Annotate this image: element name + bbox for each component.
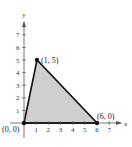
x-axis-arrow-icon — [116, 121, 122, 125]
svg-text:2: 2 — [16, 94, 20, 102]
svg-text:6: 6 — [16, 44, 20, 52]
svg-text:7: 7 — [108, 126, 112, 134]
vertex-1-5 — [35, 58, 39, 62]
svg-text:2: 2 — [47, 126, 51, 134]
svg-text:5: 5 — [83, 126, 87, 134]
chart: 1 2 3 4 5 6 7 1 2 3 4 5 6 7 y x (0, 0) (… — [0, 0, 132, 147]
triangle-region — [24, 60, 97, 123]
label-1-5: (1, 5) — [41, 56, 59, 65]
svg-text:6: 6 — [95, 126, 99, 134]
y-tick-labels: 1 2 3 4 5 6 7 — [16, 31, 20, 115]
svg-text:5: 5 — [16, 57, 20, 65]
svg-text:4: 4 — [16, 69, 20, 77]
y-axis-arrow-icon — [22, 21, 26, 27]
svg-text:3: 3 — [59, 126, 63, 134]
vertex-6-0 — [95, 121, 99, 125]
label-0-0: (0, 0) — [2, 125, 20, 134]
vertex-0-0 — [22, 121, 26, 125]
svg-text:1: 1 — [16, 107, 20, 115]
svg-text:4: 4 — [71, 126, 75, 134]
x-axis-label: x — [123, 120, 128, 128]
svg-text:3: 3 — [16, 82, 20, 90]
x-tick-labels: 1 2 3 4 5 6 7 — [35, 126, 112, 134]
svg-text:1: 1 — [35, 126, 39, 134]
label-6-0: (6, 0) — [97, 112, 115, 121]
y-axis-label: y — [22, 11, 27, 19]
svg-text:7: 7 — [16, 31, 20, 39]
